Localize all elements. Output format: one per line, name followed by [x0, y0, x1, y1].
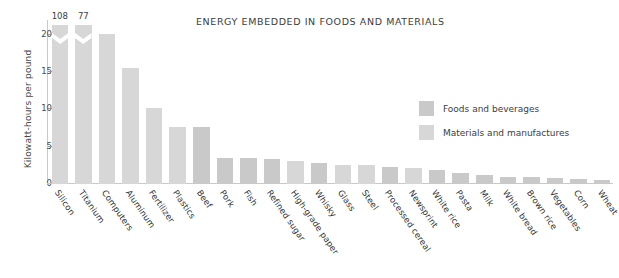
legend-label: Materials and manufactures	[443, 128, 569, 138]
bar	[382, 167, 399, 184]
axis-break-marker	[75, 33, 92, 44]
x-axis-label: Milk	[477, 188, 495, 208]
bar	[75, 25, 92, 184]
bar	[287, 161, 304, 184]
legend-item: Materials and manufactures	[419, 125, 569, 140]
bar	[405, 168, 422, 184]
bar	[217, 158, 234, 184]
bar-value-label: 77	[69, 12, 98, 21]
bar	[500, 177, 517, 184]
chart-figure: ENERGY EMBEDDED IN FOODS AND MATERIALS K…	[0, 0, 619, 278]
bar	[264, 159, 281, 184]
legend-swatch-foods	[419, 101, 434, 116]
bar	[570, 179, 587, 184]
bar	[358, 165, 375, 184]
bar	[452, 173, 469, 184]
x-axis-label: Pork	[218, 188, 237, 209]
bar	[52, 25, 69, 184]
bar	[122, 68, 139, 184]
bar	[335, 165, 352, 184]
bar	[99, 34, 116, 184]
bar	[311, 163, 328, 184]
bar	[523, 177, 540, 184]
bar	[240, 158, 257, 184]
bar	[146, 108, 163, 184]
x-axis-label: Beef	[194, 188, 213, 210]
x-axis-label: Glass	[336, 188, 358, 213]
bar	[193, 127, 210, 184]
bar	[169, 127, 186, 184]
x-axis-label: Silicon	[53, 188, 78, 217]
x-axis-label: Whisky	[312, 188, 338, 219]
x-axis-label: Corn	[572, 188, 592, 210]
bar	[594, 180, 611, 184]
legend-item: Foods and beverages	[419, 101, 569, 116]
x-axis-label: Pasta	[454, 188, 476, 213]
bar	[476, 175, 493, 184]
bar	[547, 178, 564, 184]
chart-legend: Foods and beveragesMaterials and manufac…	[419, 101, 569, 149]
bar	[429, 170, 446, 184]
x-axis-label: Fish	[242, 188, 260, 208]
axis-break-marker	[52, 33, 69, 44]
legend-label: Foods and beverages	[443, 104, 539, 114]
legend-swatch-materials	[419, 125, 434, 140]
x-axis-label: Steel	[359, 188, 380, 212]
x-axis-label: Wheat	[595, 188, 619, 217]
